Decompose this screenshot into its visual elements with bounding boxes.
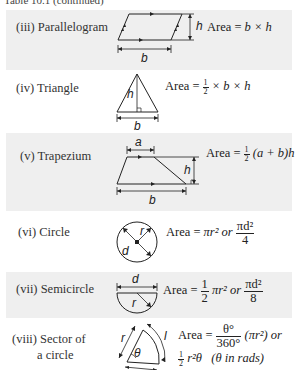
- svg-text:d: d: [122, 244, 129, 258]
- svg-text:r: r: [132, 296, 137, 310]
- trapezium-diagram: a h b: [113, 136, 203, 206]
- formula-sector-line2: 12 r²θ (θ in rads): [178, 351, 264, 368]
- formula-trapezium: Area = 12 (a + b)h: [206, 146, 294, 163]
- parallelogram-diagram: h b: [112, 12, 202, 62]
- fraction-pi-d2-over-8: πd²8: [244, 278, 262, 304]
- svg-text:l: l: [164, 329, 167, 343]
- svg-text:h: h: [127, 87, 134, 101]
- svg-text:a: a: [135, 135, 142, 149]
- svg-text:d: d: [132, 272, 139, 286]
- semicircle-diagram: d r: [114, 273, 160, 319]
- formula-circle: Area = πr² or πd²4: [166, 220, 254, 246]
- label-triangle: (iv) Triangle: [16, 81, 79, 96]
- svg-text:b: b: [149, 193, 156, 207]
- fraction-half: 12: [203, 79, 209, 96]
- label-trapezium: (v) Trapezium: [20, 149, 91, 164]
- label-parallelogram: (iii) Parallelogram: [16, 20, 108, 35]
- fraction-half: 12: [244, 146, 250, 163]
- formula-semicircle: Area = 12 πr² or πd²8: [163, 278, 263, 304]
- fraction-theta-over-360: θ°360°: [216, 323, 242, 349]
- label-sector-line2: a circle: [37, 348, 73, 363]
- triangle-diagram: h b: [115, 72, 165, 130]
- label-sector-line1: (viii) Sector of: [12, 332, 86, 347]
- svg-text:b: b: [141, 51, 148, 65]
- formula-parallelogram: Area = b × h: [207, 20, 272, 35]
- sector-diagram: r l θ: [115, 320, 171, 370]
- fraction-pi-d2-over-4: πd²4: [236, 220, 254, 246]
- fraction-half: 12: [178, 351, 184, 368]
- formula-sector-line1: Area = θ°360° (πr²) or: [178, 323, 282, 349]
- table-header: Table 10.1 (continued): [0, 0, 296, 6]
- circle-diagram: r d: [116, 218, 160, 268]
- label-semicircle: (vii) Semicircle: [16, 282, 94, 297]
- formula-triangle: Area = 12 × b × h: [165, 79, 250, 96]
- svg-text:θ: θ: [134, 346, 141, 360]
- svg-text:h: h: [196, 19, 203, 33]
- svg-text:b: b: [134, 119, 141, 133]
- fraction-half: 12: [201, 278, 209, 304]
- svg-text:r: r: [140, 224, 145, 238]
- label-circle: (vi) Circle: [18, 225, 70, 240]
- svg-text:r: r: [121, 331, 126, 345]
- svg-text:h: h: [184, 163, 191, 177]
